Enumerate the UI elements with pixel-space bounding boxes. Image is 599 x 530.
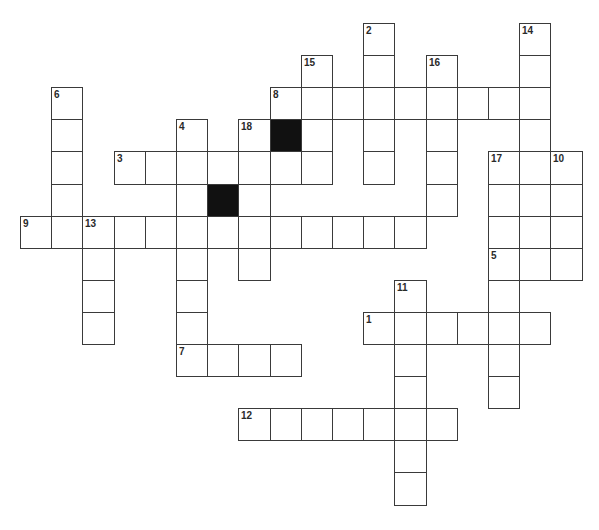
- crossword-cell[interactable]: [238, 184, 271, 217]
- cell-letter-input[interactable]: [177, 281, 207, 312]
- cell-letter-input[interactable]: [395, 409, 426, 440]
- crossword-cell[interactable]: [488, 280, 520, 313]
- cell-letter-input[interactable]: [489, 313, 519, 344]
- cell-letter-input[interactable]: [395, 441, 426, 472]
- cell-letter-input[interactable]: [458, 88, 488, 119]
- cell-letter-input[interactable]: [489, 345, 519, 376]
- crossword-cell[interactable]: [519, 87, 551, 120]
- crossword-cell[interactable]: [363, 55, 395, 88]
- crossword-cell[interactable]: 16: [426, 55, 458, 88]
- cell-letter-input[interactable]: [333, 409, 363, 440]
- cell-letter-input[interactable]: [520, 120, 550, 151]
- cell-letter-input[interactable]: [52, 120, 82, 151]
- cell-letter-input[interactable]: [427, 185, 457, 216]
- cell-letter-input[interactable]: [520, 313, 550, 344]
- cell-letter-input[interactable]: [333, 217, 363, 248]
- crossword-cell[interactable]: [51, 151, 83, 185]
- cell-letter-input[interactable]: [115, 152, 145, 184]
- crossword-cell[interactable]: [270, 344, 302, 377]
- cell-letter-input[interactable]: [83, 217, 114, 248]
- cell-letter-input[interactable]: [520, 217, 550, 248]
- cell-letter-input[interactable]: [83, 281, 114, 312]
- crossword-cell[interactable]: [82, 280, 115, 313]
- cell-letter-input[interactable]: [52, 152, 82, 184]
- crossword-cell[interactable]: [519, 151, 551, 185]
- cell-letter-input[interactable]: [208, 217, 238, 248]
- crossword-cell[interactable]: [332, 408, 364, 441]
- crossword-cell[interactable]: 17: [488, 151, 520, 185]
- cell-letter-input[interactable]: [520, 152, 550, 184]
- cell-letter-input[interactable]: [177, 217, 207, 248]
- crossword-cell[interactable]: [207, 151, 239, 185]
- crossword-cell[interactable]: [176, 151, 208, 185]
- crossword-cell[interactable]: [270, 408, 302, 441]
- cell-letter-input[interactable]: [395, 281, 426, 312]
- crossword-cell[interactable]: [301, 87, 333, 120]
- cell-letter-input[interactable]: [395, 377, 426, 408]
- cell-letter-input[interactable]: [239, 249, 270, 280]
- cell-letter-input[interactable]: [489, 152, 519, 184]
- crossword-cell[interactable]: [176, 216, 208, 249]
- cell-letter-input[interactable]: [489, 249, 519, 280]
- crossword-cell[interactable]: [332, 216, 364, 249]
- crossword-cell[interactable]: [426, 119, 458, 152]
- cell-letter-input[interactable]: [489, 185, 519, 216]
- crossword-cell[interactable]: [550, 184, 583, 217]
- crossword-cell[interactable]: [238, 248, 271, 281]
- cell-letter-input[interactable]: [364, 88, 394, 119]
- cell-letter-input[interactable]: [21, 217, 51, 248]
- cell-letter-input[interactable]: [83, 249, 114, 280]
- cell-letter-input[interactable]: [115, 217, 145, 248]
- crossword-cell[interactable]: 2: [363, 23, 395, 56]
- crossword-cell[interactable]: [176, 248, 208, 281]
- crossword-cell[interactable]: [426, 312, 458, 345]
- cell-letter-input[interactable]: [489, 217, 519, 248]
- cell-letter-input[interactable]: [208, 152, 238, 184]
- cell-letter-input[interactable]: [551, 217, 582, 248]
- crossword-cell[interactable]: [145, 216, 177, 249]
- crossword-cell[interactable]: [488, 312, 520, 345]
- crossword-cell[interactable]: [394, 344, 427, 377]
- cell-letter-input[interactable]: [427, 56, 457, 87]
- crossword-cell[interactable]: [270, 216, 302, 249]
- crossword-cell[interactable]: 18: [238, 119, 271, 152]
- crossword-cell[interactable]: [363, 119, 395, 152]
- cell-letter-input[interactable]: [489, 377, 519, 408]
- cell-letter-input[interactable]: [271, 88, 301, 119]
- crossword-cell[interactable]: [394, 312, 427, 345]
- cell-letter-input[interactable]: [302, 88, 332, 119]
- cell-letter-input[interactable]: [551, 249, 582, 280]
- cell-letter-input[interactable]: [520, 24, 550, 55]
- crossword-cell[interactable]: [488, 216, 520, 249]
- crossword-cell[interactable]: 7: [176, 344, 208, 377]
- cell-letter-input[interactable]: [208, 345, 238, 376]
- crossword-cell[interactable]: [270, 151, 302, 185]
- crossword-cell[interactable]: [363, 151, 395, 185]
- crossword-cell[interactable]: 5: [488, 248, 520, 281]
- cell-letter-input[interactable]: [364, 24, 394, 55]
- crossword-cell[interactable]: [145, 151, 177, 185]
- cell-letter-input[interactable]: [427, 409, 457, 440]
- cell-letter-input[interactable]: [302, 217, 332, 248]
- crossword-cell[interactable]: 11: [394, 280, 427, 313]
- cell-letter-input[interactable]: [52, 217, 82, 248]
- cell-letter-input[interactable]: [271, 345, 301, 376]
- crossword-cell[interactable]: [457, 312, 489, 345]
- cell-letter-input[interactable]: [177, 249, 207, 280]
- cell-letter-input[interactable]: [427, 313, 457, 344]
- crossword-cell[interactable]: [519, 248, 551, 281]
- crossword-cell[interactable]: [301, 119, 333, 152]
- cell-letter-input[interactable]: [302, 56, 332, 87]
- cell-letter-input[interactable]: [83, 313, 114, 344]
- cell-letter-input[interactable]: [177, 313, 207, 344]
- cell-letter-input[interactable]: [271, 409, 301, 440]
- crossword-cell[interactable]: [488, 344, 520, 377]
- crossword-cell[interactable]: [363, 408, 395, 441]
- crossword-cell[interactable]: [550, 248, 583, 281]
- crossword-cell[interactable]: [176, 312, 208, 345]
- crossword-cell[interactable]: [519, 55, 551, 88]
- crossword-cell[interactable]: 6: [51, 87, 83, 120]
- cell-letter-input[interactable]: [177, 152, 207, 184]
- crossword-cell[interactable]: [426, 184, 458, 217]
- cell-letter-input[interactable]: [427, 120, 457, 151]
